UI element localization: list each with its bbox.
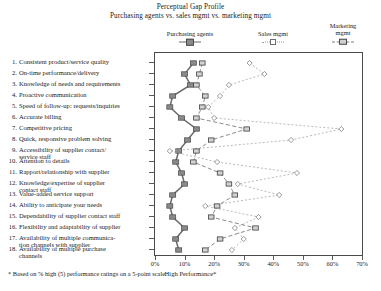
data-point [193,127,199,131]
category-label-3: 3.Knowledge of needs and requirements [4,80,152,87]
category-number: 8. [4,135,17,142]
data-point [226,82,231,87]
data-point [167,105,173,109]
y-tick [149,106,154,107]
legend-item-marketing-mgmt: Marketing mgmt [315,22,371,46]
legend-label: Sales mgmt [238,30,308,37]
y-tick [149,73,154,74]
legend-label: Purchasing agents [150,30,230,37]
category-number: 7. [4,124,17,131]
data-point [226,182,232,186]
y-tick [149,117,154,118]
category-label-4: 4.Proactive communication [4,91,152,98]
data-point [194,83,200,87]
legend-label: Marketing mgmt [315,22,371,37]
y-tick [149,150,154,151]
category-number: 2. [4,69,17,76]
x-axis-title: High Performance* [0,270,381,277]
category-label-11: 11.Rapport/relationship with supplier [4,168,152,175]
category-text: Attention to details [19,157,70,164]
data-point [215,159,220,164]
category-label-5: 5.Speed of follow-up: requests/inquiries [4,102,152,109]
data-point [203,203,208,208]
category-number: 9. [4,146,17,153]
series-line [193,63,255,250]
half-square-icon [339,39,347,46]
category-text: Value-added service support [19,190,94,197]
category-number: 3. [4,80,17,87]
category-number: 16. [4,223,17,230]
data-point [182,72,188,76]
series-sales-mgmt [167,60,344,252]
y-tick [149,62,154,63]
x-tick-label: 60% [319,260,345,267]
y-tick [149,238,154,239]
legend-marker [315,38,371,46]
filled-square-icon [186,39,194,46]
category-label-10: 10.Attention to details [4,157,152,164]
data-point [288,137,293,142]
category-number: 13. [4,190,17,197]
plot-series-svg [155,53,362,255]
y-tick [149,249,154,250]
category-text: Consistent product/service quality [19,58,109,65]
plot-area [154,52,363,256]
category-text: Competitive pricing [19,124,72,131]
x-tick-label: 70% [349,260,375,267]
y-tick [149,128,154,129]
category-label-6: 6.Accurate billing [4,113,152,120]
category-label-18: 18.Availability of multiple purchasechan… [4,245,152,260]
y-tick [149,95,154,96]
category-text: Ability to anticipate your needs [19,201,102,208]
x-tick-label: 10% [172,260,198,267]
x-tick-label: 0% [142,260,168,267]
category-text: Knowledge of needs and requirements [19,80,120,87]
category-number: 18. [4,245,17,252]
category-label-14: 14.Ability to anticipate your needs [4,201,152,208]
data-point [200,61,206,65]
data-point [179,171,185,175]
category-text: Dependability of supplier contact staff [19,212,120,219]
data-point [170,193,176,197]
data-point [244,127,250,131]
category-number: 5. [4,102,17,109]
chart-title-block: Perceptual Gap Profile Purchasing agents… [0,3,381,21]
chart-subtitle: Purchasing agents vs. sales mgmt vs. mar… [0,12,381,21]
category-text: Availability of multiple communica- [19,234,115,241]
y-tick [149,172,154,173]
category-axis-labels: 1.Consistent product/service quality2.On… [4,56,152,256]
category-text: Knowledge/expertise of supplier [19,179,105,186]
data-point [191,160,197,164]
category-number: 4. [4,91,17,98]
x-tick-label: 50% [290,260,316,267]
category-label-15: 15.Dependability of supplier contact sta… [4,212,152,219]
open-diamond-icon [270,39,276,45]
data-point [262,71,267,76]
data-point [208,215,214,219]
data-point [208,138,214,142]
data-point [170,215,176,219]
data-point [235,181,240,186]
data-point [173,237,179,241]
category-number: 14. [4,201,17,208]
category-label-13: 13.Value-added service support [4,190,152,197]
category-number: 12. [4,179,17,186]
data-point [182,182,188,186]
data-point [188,83,194,87]
category-label-7: 7.Competitive pricing [4,124,152,131]
x-tick-label: 20% [201,260,227,267]
perceptual-gap-profile-chart: Perceptual Gap Profile Purchasing agents… [0,0,381,291]
x-tick-label: 40% [260,260,286,267]
data-point [176,149,182,153]
data-point [217,171,223,175]
category-label-2: 2.On-time performance/delivery [4,69,152,76]
data-point [185,138,191,142]
data-point [197,72,203,76]
category-label-16: 16.Flexibility and adaptability of suppl… [4,223,152,230]
data-point [194,116,200,120]
data-point [277,192,282,197]
data-point [170,94,176,98]
data-point [241,236,246,241]
data-point [214,204,220,208]
category-text: Flexibility and adaptability of supplier [19,223,120,230]
